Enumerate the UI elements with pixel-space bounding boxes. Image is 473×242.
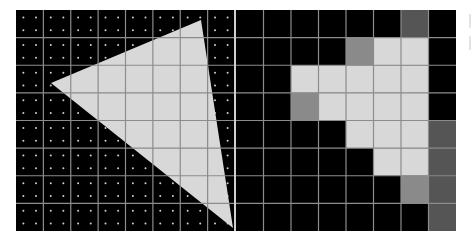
sample-point <box>35 72 37 74</box>
sample-point <box>227 57 229 59</box>
sample-point <box>90 127 92 129</box>
coverage-pixel <box>346 203 374 231</box>
sample-point <box>144 16 146 18</box>
sample-point <box>22 57 24 59</box>
sample-point <box>62 99 64 101</box>
coverage-pixel <box>291 65 319 93</box>
sample-point <box>105 57 107 59</box>
sample-point <box>144 195 146 197</box>
coverage-pixel <box>401 38 429 66</box>
coverage-pixel <box>236 38 264 66</box>
sample-point <box>227 155 229 157</box>
sample-point <box>22 155 24 157</box>
sample-point <box>62 16 64 18</box>
sample-point <box>77 29 79 31</box>
coverage-pixel <box>401 148 429 176</box>
coverage-pixel <box>319 10 347 38</box>
sample-point <box>105 140 107 142</box>
sample-point <box>214 16 216 18</box>
sample-point <box>22 99 24 101</box>
sample-point <box>144 167 146 169</box>
sample-point <box>77 155 79 157</box>
sample-point <box>62 210 64 212</box>
coverage-pixel <box>236 148 264 176</box>
sample-point <box>62 223 64 225</box>
coverage-pixel <box>291 203 319 231</box>
coverage-pixel <box>401 93 429 121</box>
coverage-pixel <box>401 65 429 93</box>
sample-point <box>90 16 92 18</box>
coverage-pixel <box>346 93 374 121</box>
sample-point <box>77 16 79 18</box>
coverage-pixel <box>374 148 402 176</box>
coverage-pixel <box>346 38 374 66</box>
sample-point <box>117 210 119 212</box>
sample-point <box>105 182 107 184</box>
coverage-pixel <box>346 65 374 93</box>
coverage-pixel <box>429 65 457 93</box>
sample-point <box>62 44 64 46</box>
sample-point <box>35 112 37 114</box>
coverage-pixel <box>264 10 292 38</box>
sample-point <box>227 29 229 31</box>
sample-point <box>90 29 92 31</box>
coverage-pixel <box>429 121 457 149</box>
coverage-pixel-grid <box>236 10 456 231</box>
sample-point <box>50 112 52 114</box>
coverage-pixel <box>374 121 402 149</box>
sample-point <box>62 127 64 129</box>
sample-point <box>62 29 64 31</box>
sample-point <box>187 210 189 212</box>
continuous-triangle-panel <box>16 10 235 231</box>
sample-point <box>117 16 119 18</box>
sample-point <box>105 127 107 129</box>
sample-point <box>77 195 79 197</box>
sample-point <box>117 182 119 184</box>
sample-point <box>117 223 119 225</box>
coverage-pixel <box>264 203 292 231</box>
sample-point <box>90 155 92 157</box>
sample-point <box>187 223 189 225</box>
sample-point <box>159 29 161 31</box>
sample-point <box>62 155 64 157</box>
sample-point <box>77 57 79 59</box>
sample-point <box>214 44 216 46</box>
coverage-pixel <box>401 176 429 204</box>
sample-point <box>62 140 64 142</box>
coverage-pixel <box>319 93 347 121</box>
sample-point <box>227 72 229 74</box>
sample-point <box>199 223 201 225</box>
sample-point <box>50 127 52 129</box>
sample-point <box>132 167 134 169</box>
sample-point <box>214 223 216 225</box>
sample-point <box>117 195 119 197</box>
sample-point <box>35 84 37 86</box>
sample-point <box>105 167 107 169</box>
coverage-pixel <box>346 10 374 38</box>
coverage-pixel <box>346 148 374 176</box>
sample-point <box>159 16 161 18</box>
coverage-pixel <box>429 93 457 121</box>
sample-point <box>90 167 92 169</box>
coverage-pixel <box>401 203 429 231</box>
sample-point <box>227 182 229 184</box>
sample-point <box>117 155 119 157</box>
cropped-edge-marks <box>469 14 472 74</box>
coverage-pixel <box>236 203 264 231</box>
coverage-pixel <box>374 203 402 231</box>
sample-point <box>35 155 37 157</box>
coverage-pixel <box>291 38 319 66</box>
sample-point <box>214 99 216 101</box>
sample-point <box>132 16 134 18</box>
coverage-pixel <box>264 121 292 149</box>
sample-point <box>172 223 174 225</box>
sample-point <box>77 140 79 142</box>
coverage-pixel <box>429 176 457 204</box>
coverage-pixel <box>319 203 347 231</box>
sample-point <box>172 182 174 184</box>
coverage-pixel <box>264 65 292 93</box>
sample-point <box>62 57 64 59</box>
sample-point <box>90 57 92 59</box>
sample-point <box>117 29 119 31</box>
sample-point <box>227 140 229 142</box>
